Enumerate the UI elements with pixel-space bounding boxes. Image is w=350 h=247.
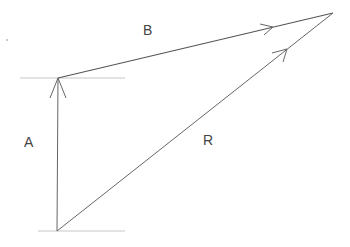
vector-a-label: A (24, 135, 33, 149)
stray-dot (6, 39, 8, 41)
vector-r-label: R (203, 133, 213, 147)
vector-b-label: B (143, 23, 152, 37)
vector-a-line (57, 78, 58, 231)
vector-diagram: B A R (0, 0, 350, 247)
diagram-svg (0, 0, 350, 247)
